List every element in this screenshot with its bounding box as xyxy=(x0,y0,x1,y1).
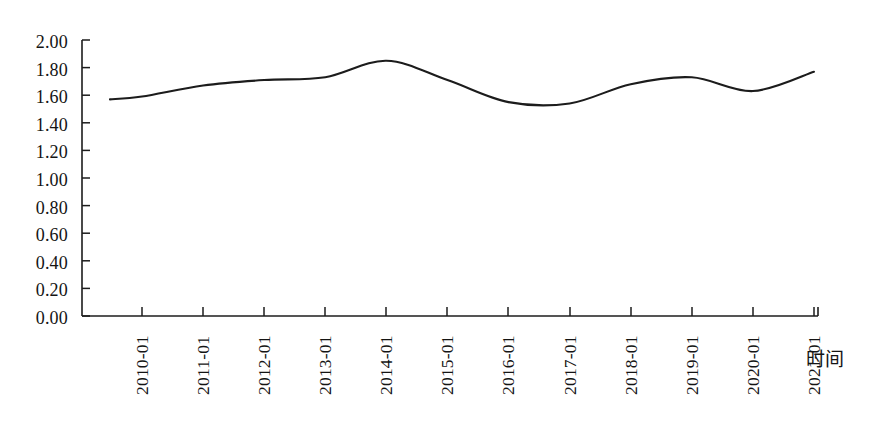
data-line-series xyxy=(110,61,814,106)
y-axis-tick-label: 1.80 xyxy=(4,61,68,79)
x-axis-tick-label: 2020-01 xyxy=(745,335,763,395)
x-axis-tick-label: 2015-01 xyxy=(439,335,457,395)
y-axis-tick-label: 0.80 xyxy=(4,199,68,217)
y-axis-tick-label: 1.00 xyxy=(4,171,68,189)
x-axis-tick-label: 2010-01 xyxy=(134,335,152,395)
y-axis-tick-label: 0.00 xyxy=(4,309,68,327)
y-axis-tick-label: 2.00 xyxy=(4,33,68,51)
y-axis-tick-label: 0.40 xyxy=(4,254,68,272)
x-axis-tick-label: 2018-01 xyxy=(623,335,641,395)
x-axis xyxy=(82,307,818,316)
x-axis-tick-label: 2013-01 xyxy=(317,335,335,395)
x-axis-tick-label: 2016-01 xyxy=(500,335,518,395)
y-axis-tick-label: 1.20 xyxy=(4,143,68,161)
x-axis-tick-label: 2014-01 xyxy=(378,335,396,395)
y-axis-tick-label: 0.60 xyxy=(4,226,68,244)
y-axis-tick-label: 1.60 xyxy=(4,88,68,106)
y-axis-tick-label: 1.40 xyxy=(4,116,68,134)
x-axis-tick-label: 2019-01 xyxy=(684,335,702,395)
x-axis-tick-label: 2017-01 xyxy=(562,335,580,395)
y-axis xyxy=(82,40,90,316)
x-axis-title: 时间 xyxy=(806,350,844,369)
x-axis-tick-label: 2012-01 xyxy=(256,335,274,395)
line-chart: 2.00 1.80 1.60 1.40 1.20 1.00 0.80 0.60 … xyxy=(0,0,873,445)
y-axis-tick-label: 0.20 xyxy=(4,281,68,299)
x-axis-tick-label: 2011-01 xyxy=(195,336,213,395)
